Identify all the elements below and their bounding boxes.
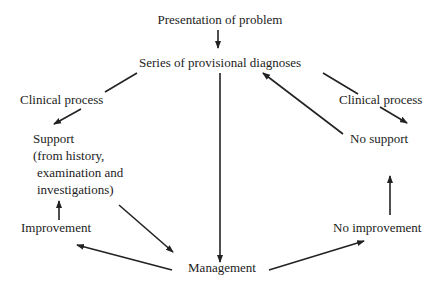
- diagram-canvas: Presentation of problem Series of provis…: [0, 0, 441, 287]
- line-diagnoses-to-clinical-right: [323, 73, 358, 94]
- node-no-support: No support: [350, 131, 409, 146]
- node-management: Management: [188, 260, 256, 275]
- flow-diagram: Presentation of problem Series of provis…: [0, 0, 441, 287]
- label-clinical-process-left: Clinical process: [20, 92, 103, 107]
- arrow-management-to-no-improvement: [269, 241, 364, 270]
- node-support-detail-3: investigations): [37, 182, 114, 197]
- arrow-management-to-improvement: [77, 245, 172, 270]
- node-support: Support: [33, 131, 75, 146]
- node-improvement: Improvement: [21, 220, 91, 235]
- node-diagnoses: Series of provisional diagnoses: [139, 55, 301, 70]
- arrow-no-support-to-diagnoses: [263, 73, 343, 134]
- node-support-detail-2: examination and: [37, 165, 124, 180]
- arrow-clinical-right-to-no-support: [380, 107, 407, 123]
- arrow-support-to-management: [119, 205, 173, 252]
- arrow-clinical-left-to-support: [54, 109, 81, 124]
- label-clinical-process-right: Clinical process: [339, 92, 422, 107]
- node-support-detail-1: (from history,: [33, 148, 104, 163]
- node-presentation: Presentation of problem: [158, 12, 283, 27]
- line-diagnoses-to-clinical-left: [105, 73, 137, 92]
- node-no-improvement: No improvement: [333, 220, 422, 235]
